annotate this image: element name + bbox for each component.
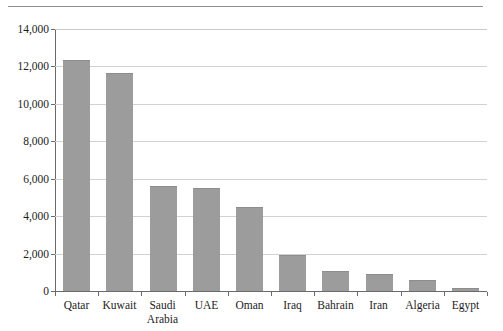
bar: [322, 271, 349, 291]
y-tick-label: 2,000: [1, 248, 49, 260]
x-tick-mark: [141, 292, 142, 296]
bar: [63, 60, 90, 291]
gridline-12000: [55, 66, 487, 67]
y-tick-mark: [51, 29, 55, 30]
x-tick-label: Bahrain: [314, 299, 357, 313]
bar: [279, 255, 306, 291]
y-tick-mark: [51, 179, 55, 180]
top-horizontal-rule: [8, 6, 483, 7]
x-tick-label: UAE: [185, 299, 228, 313]
x-tick-mark: [357, 292, 358, 296]
x-tick-label: Algeria: [401, 299, 444, 313]
bar: [150, 186, 177, 291]
x-tick-mark: [401, 292, 402, 296]
x-tick-mark: [185, 292, 186, 296]
x-tick-mark: [271, 292, 272, 296]
x-tick-label: Egypt: [444, 299, 487, 313]
y-tick-label: 8,000: [1, 135, 49, 147]
figure-container: 02,0004,0006,0008,00010,00012,00014,000 …: [0, 0, 503, 331]
x-tick-label: Iran: [357, 299, 400, 313]
x-tick-label: Kuwait: [98, 299, 141, 313]
bar: [236, 207, 263, 291]
y-tick-label: 14,000: [1, 23, 49, 35]
y-tick-mark: [51, 104, 55, 105]
y-tick-mark: [51, 254, 55, 255]
y-tick-label: 10,000: [1, 98, 49, 110]
bar: [452, 288, 479, 291]
x-tick-mark: [487, 292, 488, 296]
y-axis-line: [55, 29, 56, 292]
y-tick-label: 0: [1, 285, 49, 297]
x-tick-label: Saudi Arabia: [141, 299, 184, 326]
bar: [193, 188, 220, 291]
x-tick-mark: [55, 292, 56, 296]
y-tick-label: 12,000: [1, 60, 49, 72]
x-tick-label: Oman: [228, 299, 271, 313]
y-tick-mark: [51, 66, 55, 67]
x-tick-mark: [444, 292, 445, 296]
y-tick-mark: [51, 216, 55, 217]
x-tick-mark: [314, 292, 315, 296]
x-tick-label: Qatar: [55, 299, 98, 313]
bar: [409, 280, 436, 291]
bar: [106, 73, 133, 291]
y-tick-mark: [51, 141, 55, 142]
x-tick-mark: [98, 292, 99, 296]
x-tick-label: Iraq: [271, 299, 314, 313]
y-tick-label: 6,000: [1, 173, 49, 185]
gridline-14000: [55, 29, 487, 30]
x-tick-mark: [228, 292, 229, 296]
y-tick-label: 4,000: [1, 210, 49, 222]
bar: [366, 274, 393, 291]
